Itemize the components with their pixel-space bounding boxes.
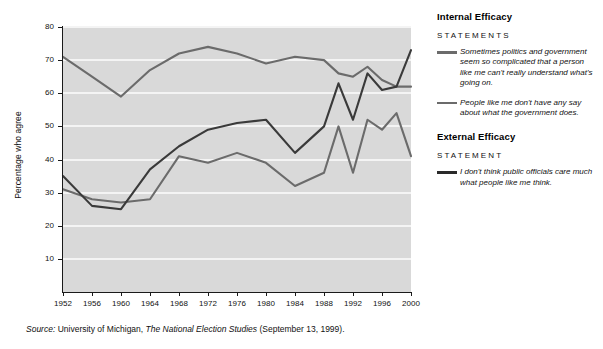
legend-swatch-icon — [437, 102, 457, 105]
legend-item-label: People like me don't have any say about … — [460, 98, 597, 119]
x-tick — [382, 292, 383, 296]
legend-swatch-icon — [437, 51, 457, 54]
y-tick-label: 80 — [34, 22, 54, 31]
source-citation: Source: University of Michigan, The Nati… — [26, 324, 345, 334]
y-tick — [58, 160, 62, 161]
x-tick — [92, 292, 93, 296]
legend-group-title: Internal Efficacy — [437, 11, 597, 22]
x-tick — [63, 292, 64, 296]
legend-item-label: Sometimes politics and government seem s… — [460, 47, 597, 89]
legend-item-label: I don't think public officials care much… — [460, 167, 597, 188]
series-line-1 — [63, 47, 411, 97]
x-tick — [121, 292, 122, 296]
y-tick — [58, 126, 62, 127]
x-tick — [324, 292, 325, 296]
source-suffix: (September 13, 1999). — [259, 324, 344, 334]
legend-swatch-icon — [437, 171, 457, 174]
legend: Internal EfficacySTATEMENTSSometimes pol… — [437, 11, 597, 201]
x-tick — [353, 292, 354, 296]
y-tick — [58, 27, 62, 28]
x-tick — [411, 292, 412, 296]
figure-root: Percentage who agree 1020304050607080 19… — [0, 0, 603, 349]
y-tick — [58, 226, 62, 227]
x-tick — [266, 292, 267, 296]
x-tick — [208, 292, 209, 296]
y-tick — [58, 93, 62, 94]
y-tick-label: 30 — [34, 188, 54, 197]
x-tick — [295, 292, 296, 296]
y-tick-label: 60 — [34, 88, 54, 97]
legend-item[interactable]: People like me don't have any say about … — [437, 98, 597, 119]
legend-item[interactable]: I don't think public officials care much… — [437, 167, 597, 188]
y-tick — [58, 60, 62, 61]
legend-group-subtitle: STATEMENTS — [437, 31, 597, 40]
legend-group-2: External EfficacySTATEMENTI don't think … — [437, 131, 597, 188]
series-line-2 — [63, 113, 411, 202]
y-tick-label: 50 — [34, 121, 54, 130]
y-tick — [58, 193, 62, 194]
x-tick — [150, 292, 151, 296]
source-org: University of Michigan, — [58, 324, 144, 334]
legend-group-subtitle: STATEMENT — [437, 151, 597, 160]
x-tick — [179, 292, 180, 296]
y-tick-label: 70 — [34, 55, 54, 64]
line-chart: Percentage who agree 1020304050607080 19… — [0, 0, 420, 315]
legend-group-1: Internal EfficacySTATEMENTSSometimes pol… — [437, 11, 597, 118]
series-line-3 — [63, 50, 411, 209]
x-tick-label: 2000 — [394, 299, 428, 308]
series-lines — [63, 27, 411, 292]
y-axis-label: Percentage who agree — [13, 85, 23, 225]
plot-area — [63, 27, 411, 292]
legend-item[interactable]: Sometimes politics and government seem s… — [437, 47, 597, 89]
x-tick — [237, 292, 238, 296]
legend-group-title: External Efficacy — [437, 131, 597, 142]
y-tick — [58, 259, 62, 260]
y-axis — [62, 26, 63, 293]
y-tick-label: 10 — [34, 254, 54, 263]
y-tick-label: 20 — [34, 221, 54, 230]
source-prefix: Source: — [26, 324, 55, 334]
source-publication: The National Election Studies — [146, 324, 258, 334]
y-tick-label: 40 — [34, 155, 54, 164]
